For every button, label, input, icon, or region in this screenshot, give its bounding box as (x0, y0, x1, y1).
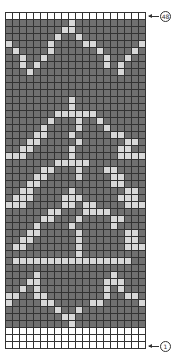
chart-cell (48, 139, 55, 146)
chart-cell (83, 216, 90, 223)
chart-cell (118, 41, 125, 48)
chart-cell (111, 265, 118, 272)
chart-cell (41, 20, 48, 27)
chart-cell (90, 118, 97, 125)
chart-cell (118, 125, 125, 132)
chart-cell (20, 97, 27, 104)
chart-cell (125, 195, 132, 202)
chart-cell (125, 181, 132, 188)
chart-cell (76, 223, 83, 230)
chart-cell (20, 83, 27, 90)
chart-cell (20, 90, 27, 97)
chart-cell (34, 237, 41, 244)
chart-cell (97, 342, 104, 349)
chart-cell (125, 125, 132, 132)
chart-cell (69, 244, 76, 251)
chart-cell (139, 223, 146, 230)
chart-cell (48, 195, 55, 202)
chart-cell (132, 167, 139, 174)
chart-cell (76, 342, 83, 349)
chart-cell (118, 342, 125, 349)
chart-cell (55, 293, 62, 300)
chart-cell (55, 328, 62, 335)
chart-cell (34, 300, 41, 307)
chart-cell (6, 335, 13, 342)
chart-cell (55, 258, 62, 265)
chart-cell (34, 209, 41, 216)
chart-cell (20, 244, 27, 251)
chart-cell (34, 48, 41, 55)
chart-cell (76, 62, 83, 69)
chart-cell (90, 132, 97, 139)
chart-cell (125, 20, 132, 27)
chart-cell (13, 97, 20, 104)
chart-cell (111, 181, 118, 188)
chart-cell (41, 237, 48, 244)
chart-cell (132, 335, 139, 342)
chart-cell (27, 342, 34, 349)
chart-cell (132, 104, 139, 111)
chart-cell (139, 174, 146, 181)
chart-cell (41, 335, 48, 342)
chart-cell (62, 300, 69, 307)
chart-cell (69, 230, 76, 237)
chart-cell (111, 41, 118, 48)
chart-cell (104, 300, 111, 307)
chart-cell (13, 104, 20, 111)
chart-cell (62, 195, 69, 202)
chart-cell (104, 188, 111, 195)
chart-cell (27, 272, 34, 279)
chart-cell (111, 209, 118, 216)
chart-cell (20, 41, 27, 48)
chart-cell (13, 111, 20, 118)
chart-cell (55, 216, 62, 223)
chart-cell (125, 188, 132, 195)
chart-cell (90, 139, 97, 146)
chart-cell (111, 223, 118, 230)
chart-cell (34, 132, 41, 139)
chart-cell (27, 55, 34, 62)
chart-cell (132, 41, 139, 48)
chart-cell (6, 265, 13, 272)
chart-cell (48, 48, 55, 55)
chart-cell (62, 321, 69, 328)
chart-cell (69, 167, 76, 174)
chart-cell (90, 244, 97, 251)
chart-cell (34, 139, 41, 146)
chart-cell (20, 20, 27, 27)
chart-cell (13, 328, 20, 335)
chart-cell (97, 111, 104, 118)
chart-cell (76, 202, 83, 209)
chart-cell (76, 216, 83, 223)
chart-cell (111, 27, 118, 34)
chart-cell (41, 139, 48, 146)
chart-cell (90, 223, 97, 230)
chart-cell (90, 83, 97, 90)
chart-cell (132, 48, 139, 55)
chart-cell (6, 237, 13, 244)
chart-cell (27, 48, 34, 55)
chart-cell (97, 209, 104, 216)
chart-cell (48, 125, 55, 132)
chart-cell (27, 62, 34, 69)
chart-cell (97, 230, 104, 237)
chart-cell (62, 342, 69, 349)
chart-cell (27, 265, 34, 272)
chart-cell (55, 20, 62, 27)
top-row-label: 48 (149, 11, 171, 22)
chart-cell (55, 223, 62, 230)
chart-cell (125, 48, 132, 55)
chart-cell (48, 20, 55, 27)
chart-cell (83, 83, 90, 90)
chart-cell (111, 314, 118, 321)
chart-cell (6, 132, 13, 139)
chart-cell (27, 83, 34, 90)
chart-cell (6, 125, 13, 132)
chart-cell (139, 90, 146, 97)
chart-cell (6, 55, 13, 62)
chart-cell (139, 328, 146, 335)
chart-cell (125, 216, 132, 223)
chart-cell (55, 202, 62, 209)
chart-cell (55, 104, 62, 111)
chart-cell (76, 104, 83, 111)
